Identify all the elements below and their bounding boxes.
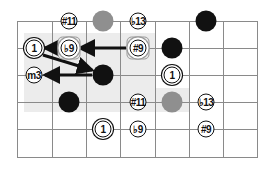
interval-note: #9 (130, 40, 147, 57)
fretboard-diagram: #11♭131♭9#9m31#11♭131♭9#9 (0, 0, 271, 169)
interval-note: ♭13 (198, 94, 215, 111)
gray-dot-note (162, 92, 183, 113)
black-dot-note (59, 92, 80, 113)
interval-note: #11 (61, 13, 78, 30)
black-dot-note (93, 65, 114, 86)
root-note: 1 (164, 67, 181, 84)
interval-note: #11 (130, 94, 147, 111)
black-dot-note (162, 38, 183, 59)
interval-note: #9 (198, 121, 215, 138)
gray-dot-note (93, 11, 114, 32)
interval-note: ♭9 (61, 40, 78, 57)
interval-note: ♭9 (130, 121, 147, 138)
root-note: 1 (26, 40, 43, 57)
root-note: 1 (95, 121, 112, 138)
interval-note: ♭13 (130, 13, 147, 30)
interval-note: m3 (26, 67, 43, 84)
black-dot-note (196, 11, 217, 32)
